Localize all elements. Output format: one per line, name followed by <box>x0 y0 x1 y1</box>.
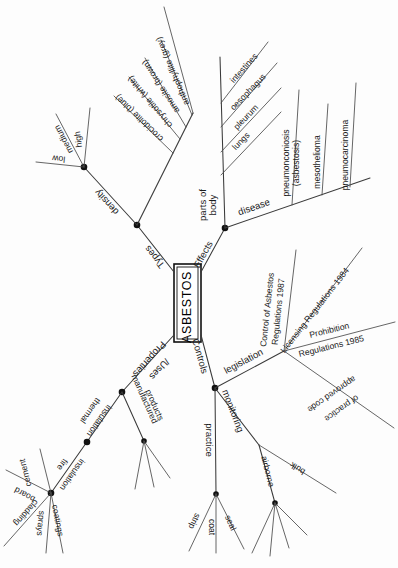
lungs-line <box>221 112 281 175</box>
parts-of-body-label-2: body <box>207 194 218 215</box>
sprays-label: sprays <box>35 510 48 536</box>
mindmap-canvas: Types ASBESTOS Types density low medium … <box>0 0 398 568</box>
branch-density[interactable]: density low medium high <box>36 108 137 225</box>
branch-manufactured-products[interactable]: manufactured products <box>122 373 170 489</box>
high-line <box>84 108 90 167</box>
branch-properties-uses[interactable]: Properties /Uses <box>119 335 174 395</box>
bulk-label: bulk <box>287 460 306 477</box>
practice-label: practice <box>204 423 215 457</box>
airborne-label: airborne <box>259 455 276 488</box>
thermal-node-dot <box>84 439 91 446</box>
asbestos-title: ASBESTOS <box>180 271 194 343</box>
manufactured-sub-1 <box>135 441 144 489</box>
center-node[interactable]: Types ASBESTOS <box>174 264 201 343</box>
branch-types[interactable]: Types <box>134 222 174 272</box>
airborne-sub-2 <box>270 503 275 556</box>
branch-controls[interactable]: Controls <box>190 335 218 391</box>
lungs-label: lungs <box>230 130 251 152</box>
parts-of-body-line <box>220 57 225 228</box>
pneumonconiosis-label-1: pneumonconiosis <box>281 130 291 197</box>
pneumocarcinoma-label: pneumocarcinoma <box>340 119 350 190</box>
branch-effects[interactable]: Effects <box>191 225 228 272</box>
branch-legislation[interactable]: legislation Control of Asbestos Regulati… <box>215 248 395 428</box>
seal-label: seal <box>223 513 239 532</box>
coat-label: coat <box>207 519 217 536</box>
branch-disease[interactable]: disease pneumonconiosis (asbestosis) mes… <box>225 83 370 228</box>
airborne-sub-1 <box>252 503 275 553</box>
high-label: high <box>72 130 84 148</box>
mesothelioma-line <box>322 104 328 195</box>
asbestos-mind-map: Types ASBESTOS Types density low medium … <box>0 0 398 568</box>
cement-line <box>40 449 51 493</box>
low-label: low <box>51 153 66 164</box>
mesothelioma-label: mesothelioma <box>312 135 322 189</box>
pleurum-line <box>221 88 281 152</box>
pneumocarcinoma-line <box>350 83 356 187</box>
monitoring-label: monitoring <box>220 388 246 434</box>
legislation-label: legislation <box>222 346 265 376</box>
branch-fibre-types[interactable]: crocidolite (blue) chrysotile (white) am… <box>113 7 193 225</box>
effects-label: Effects <box>191 239 215 270</box>
controls-label: Controls <box>190 337 210 375</box>
regulations-1985-label: Regulations 1985 <box>298 333 366 359</box>
fire-insulation-label-1: fire <box>55 457 70 473</box>
pneumonconiosis-label-2: (asbestosis) <box>291 140 301 186</box>
branch-insulation[interactable]: thermal insulation fire insulation cemen… <box>4 392 122 553</box>
branch-monitoring[interactable]: monitoring airborne bulk <box>215 388 336 556</box>
coatings-label: coatings <box>50 504 66 537</box>
